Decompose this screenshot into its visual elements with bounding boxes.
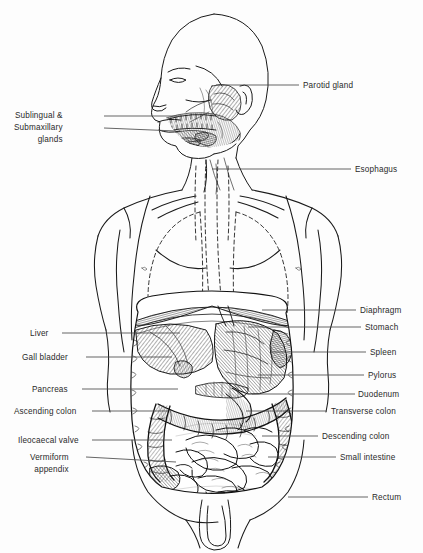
label-line: Ascending colon [14, 406, 76, 418]
label-line: Diaphragm [360, 305, 401, 317]
label-gall-bladder: Gall bladder [22, 352, 68, 364]
label-line: Duodenum [358, 389, 399, 401]
label-line: Parotid gland [303, 80, 353, 92]
label-line: Gall bladder [22, 352, 68, 364]
label-stomach: Stomach [365, 322, 398, 334]
label-line: Vermiform [30, 452, 69, 464]
label-line: glands [14, 134, 63, 146]
label-rectum: Rectum [372, 492, 401, 504]
label-transverse-colon: Transverse colon [331, 406, 396, 418]
label-small-intestine: Small intestine [340, 452, 396, 464]
label-parotid-gland: Parotid gland [303, 80, 353, 92]
label-line: Submaxillary [14, 122, 63, 134]
label-line: Pancreas [32, 384, 68, 396]
label-line: Stomach [365, 322, 398, 334]
label-line: Sublingual & [14, 110, 63, 122]
label-sublingual-submaxillary-glands: Sublingual &Submaxillaryglands [14, 110, 63, 147]
label-line: Esophagus [355, 164, 397, 176]
label-liver: Liver [30, 328, 49, 340]
label-line: Ileocaecal valve [18, 435, 79, 447]
label-line: Spleen [370, 347, 396, 359]
label-line: Descending colon [322, 431, 390, 443]
label-pylorus: Pylorus [368, 370, 396, 382]
lower-body-outline [199, 500, 230, 550]
oral-cavity-detail [164, 84, 241, 149]
label-line: Rectum [372, 492, 401, 504]
label-diaphragm: Diaphragm [360, 305, 401, 317]
label-ileocaecal-valve: Ileocaecal valve [18, 435, 79, 447]
label-vermiform-appendix: Vermiformappendix [30, 452, 69, 476]
label-line: Liver [30, 328, 49, 340]
label-line: Small intestine [340, 452, 396, 464]
label-descending-colon: Descending colon [322, 431, 390, 443]
label-spleen: Spleen [370, 347, 396, 359]
label-line: Transverse colon [331, 406, 396, 418]
label-pancreas: Pancreas [32, 384, 68, 396]
label-line: Pylorus [368, 370, 396, 382]
label-duodenum: Duodenum [358, 389, 399, 401]
label-ascending-colon: Ascending colon [14, 406, 76, 418]
digestive-system-diagram: Sublingual &SubmaxillaryglandsLiverGall … [0, 0, 423, 553]
leader-line [104, 128, 176, 131]
label-esophagus: Esophagus [355, 164, 397, 176]
label-line: appendix [30, 464, 69, 476]
